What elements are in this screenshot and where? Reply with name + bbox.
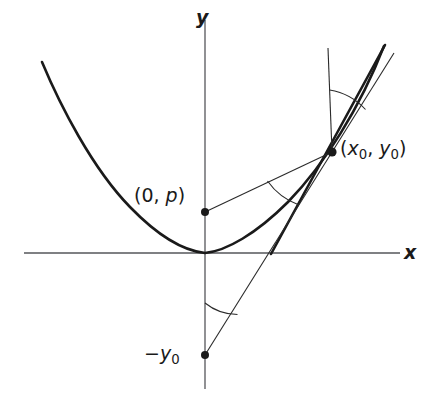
- angle-arc-neg-y0: [205, 303, 238, 315]
- focus-label-close: ): [178, 184, 185, 206]
- neg-y0-label-var: y: [160, 342, 171, 364]
- tangency-label-var-y: y: [379, 137, 390, 159]
- tangency-label-close: ): [399, 137, 406, 159]
- parabola-figure: y x (0, p) (x0, y0) −y0: [0, 0, 428, 394]
- figure-canvas: [0, 0, 428, 394]
- focus-label-var: p: [166, 184, 178, 206]
- focus-label-open: (0,: [134, 184, 166, 206]
- y-axis-label: y: [196, 8, 208, 27]
- vertical-incoming-ray: [328, 48, 332, 152]
- focus-label: (0, p): [134, 186, 185, 205]
- angle-arc-tangency-focal: [268, 181, 300, 205]
- focus-point-dot: [201, 208, 209, 216]
- tangency-point-dot: [327, 147, 336, 156]
- neg-y0-label-minus: −: [144, 342, 160, 364]
- tangency-point-label: (x0, y0): [340, 139, 406, 161]
- tangency-label-separator: ,: [367, 137, 379, 159]
- tangency-label-var-x: x: [347, 137, 358, 159]
- neg-y0-label-sub: 0: [171, 352, 179, 367]
- tangency-label-sub-y: 0: [390, 147, 398, 162]
- x-axis-label: x: [404, 243, 416, 262]
- neg-y0-point-dot: [201, 351, 209, 359]
- directrix-ray: [205, 53, 394, 355]
- neg-y0-label: −y0: [144, 344, 180, 366]
- tangency-label-sub-x: 0: [359, 147, 367, 162]
